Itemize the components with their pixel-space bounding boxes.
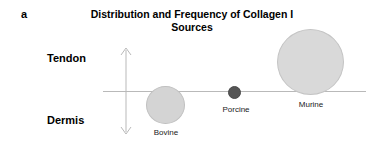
bubble-label-bovine: Bovine bbox=[136, 128, 196, 137]
panel-letter: a bbox=[21, 8, 27, 20]
chart-title-line-1: Distribution and Frequency of Collagen I bbox=[91, 8, 293, 20]
axis-label-dermis: Dermis bbox=[47, 114, 84, 126]
bubble-porcine bbox=[228, 86, 241, 99]
bubble-label-porcine: Porcine bbox=[206, 105, 266, 114]
vertical-double-arrow-icon bbox=[114, 44, 138, 138]
bubble-bovine bbox=[146, 86, 185, 124]
bubble-label-murine: Murine bbox=[281, 100, 341, 109]
chart-title: Distribution and Frequency of Collagen I… bbox=[68, 8, 316, 34]
figure-panel: a Distribution and Frequency of Collagen… bbox=[0, 0, 366, 151]
chart-title-line-2: Sources bbox=[171, 21, 212, 33]
axis-label-tendon: Tendon bbox=[47, 52, 86, 64]
bubble-murine bbox=[277, 29, 344, 95]
